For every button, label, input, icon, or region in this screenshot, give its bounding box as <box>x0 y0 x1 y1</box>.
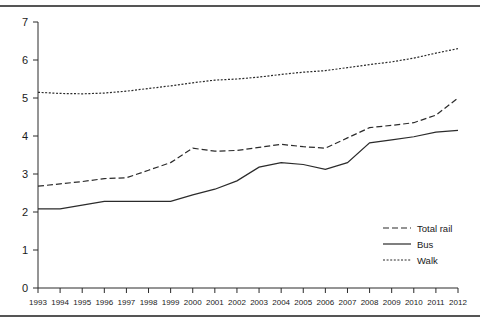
legend-label-walk: Walk <box>417 255 438 266</box>
y-axis-ticks: 01234567 <box>22 16 38 294</box>
legend-label-total-rail: Total rail <box>417 223 452 234</box>
y-tick-label: 2 <box>22 206 28 218</box>
y-tick-label: 7 <box>22 16 28 28</box>
x-tick-label: 2004 <box>272 298 290 307</box>
x-tick-label: 2002 <box>228 298 246 307</box>
y-tick-label: 6 <box>22 54 28 66</box>
y-tick-label: 5 <box>22 92 28 104</box>
y-tick-label: 0 <box>22 282 28 294</box>
x-tick-label: 2006 <box>316 298 334 307</box>
x-tick-label: 2012 <box>449 298 467 307</box>
y-tick-label: 1 <box>22 244 28 256</box>
series-line-bus <box>38 130 458 209</box>
x-tick-label: 2008 <box>361 298 379 307</box>
x-tick-label: 2009 <box>383 298 401 307</box>
x-tick-label: 1993 <box>29 298 47 307</box>
x-tick-label: 2011 <box>427 298 445 307</box>
chart-page: 01234567 1993199419951996199719981999200… <box>0 0 480 323</box>
x-tick-label: 1999 <box>162 298 180 307</box>
chart-legend: Total railBusWalk <box>383 223 452 266</box>
y-tick-label: 3 <box>22 168 28 180</box>
x-tick-label: 1994 <box>51 298 69 307</box>
x-tick-label: 1996 <box>95 298 113 307</box>
series-line-walk <box>38 49 458 94</box>
x-tick-label: 2010 <box>405 298 423 307</box>
legend-label-bus: Bus <box>417 239 434 250</box>
x-tick-label: 2000 <box>184 298 202 307</box>
line-chart: 01234567 1993199419951996199719981999200… <box>0 0 480 323</box>
x-tick-label: 1995 <box>73 298 91 307</box>
x-tick-label: 2005 <box>294 298 312 307</box>
series-lines <box>38 49 458 209</box>
y-tick-label: 4 <box>22 130 28 142</box>
series-line-total-rail <box>38 98 458 186</box>
x-tick-label: 1998 <box>140 298 158 307</box>
x-tick-label: 2007 <box>339 298 357 307</box>
x-tick-label: 2001 <box>206 298 224 307</box>
x-tick-label: 2003 <box>250 298 268 307</box>
x-tick-label: 1997 <box>118 298 136 307</box>
x-axis-ticks: 1993199419951996199719981999200020012002… <box>29 288 467 307</box>
